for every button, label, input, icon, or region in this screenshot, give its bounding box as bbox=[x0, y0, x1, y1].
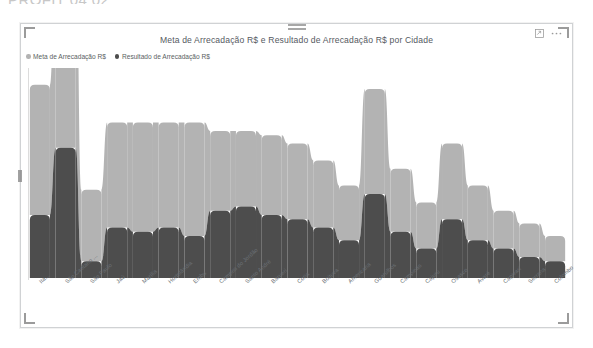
bar-meta[interactable] bbox=[133, 123, 153, 232]
ribbon-meta bbox=[179, 123, 185, 236]
bar-meta[interactable] bbox=[416, 202, 436, 248]
bar-resultado[interactable] bbox=[107, 228, 127, 278]
ribbon-meta bbox=[127, 123, 133, 232]
ribbon-meta bbox=[230, 131, 236, 211]
bar-resultado[interactable] bbox=[287, 219, 307, 278]
bar-meta[interactable] bbox=[313, 160, 333, 227]
bar-meta[interactable] bbox=[210, 131, 230, 211]
bar-resultado[interactable] bbox=[442, 219, 462, 278]
ribbon-meta bbox=[539, 223, 545, 261]
bar-meta[interactable] bbox=[365, 89, 385, 194]
chart-legend[interactable]: Meta de Arrecadação R$ Resultado de Arre… bbox=[26, 53, 210, 60]
bar-meta[interactable] bbox=[236, 131, 256, 207]
bar-meta[interactable] bbox=[287, 144, 307, 220]
bar-meta[interactable] bbox=[519, 223, 539, 257]
bar-meta[interactable] bbox=[442, 144, 462, 220]
legend-swatch-meta bbox=[26, 54, 31, 59]
ribbon-resultado bbox=[308, 219, 314, 278]
ribbon-chart-svg[interactable] bbox=[27, 68, 568, 278]
ribbon-meta bbox=[256, 131, 262, 215]
chart-visual-card[interactable]: Meta de Arrecadação R$ e Resultado de Ar… bbox=[20, 23, 573, 328]
ribbon-resultado bbox=[127, 228, 133, 278]
bar-meta[interactable] bbox=[159, 123, 179, 228]
ribbon-meta bbox=[488, 186, 494, 249]
ribbon-meta bbox=[153, 123, 159, 232]
ribbon-meta bbox=[308, 144, 314, 228]
bar-meta[interactable] bbox=[545, 236, 565, 261]
bar-resultado[interactable] bbox=[30, 215, 50, 278]
bar-resultado[interactable] bbox=[56, 148, 76, 278]
page-heading: PROFIT 04 02 bbox=[8, 0, 109, 4]
legend-item-meta[interactable]: Meta de Arrecadação R$ bbox=[26, 53, 106, 60]
bar-meta[interactable] bbox=[107, 123, 127, 228]
legend-label-meta: Meta de Arrecadação R$ bbox=[33, 53, 106, 60]
bar-meta[interactable] bbox=[56, 68, 76, 148]
bar-meta[interactable] bbox=[494, 211, 514, 249]
bar-meta[interactable] bbox=[262, 135, 282, 215]
bar-meta[interactable] bbox=[184, 123, 204, 236]
drag-handle-top[interactable] bbox=[288, 24, 306, 31]
chart-title: Meta de Arrecadação R$ e Resultado de Ar… bbox=[21, 35, 572, 45]
x-axis-labels[interactable]: Ita...São Caetano ...São PauloJaúMarília… bbox=[27, 280, 568, 326]
ribbon-meta bbox=[282, 135, 288, 219]
bar-meta[interactable] bbox=[468, 186, 488, 241]
plot-area[interactable] bbox=[27, 68, 568, 278]
bar-meta[interactable] bbox=[81, 190, 101, 261]
bar-meta[interactable] bbox=[30, 85, 50, 215]
legend-item-resultado[interactable]: Resultado de Arrecadação R$ bbox=[115, 53, 210, 60]
bar-meta[interactable] bbox=[339, 186, 359, 241]
legend-label-resultado: Resultado de Arrecadação R$ bbox=[122, 53, 210, 60]
legend-swatch-resultado bbox=[115, 54, 120, 59]
bar-meta[interactable] bbox=[391, 169, 411, 232]
bar-resultado[interactable] bbox=[210, 211, 230, 278]
resize-handle-left[interactable] bbox=[18, 170, 22, 182]
